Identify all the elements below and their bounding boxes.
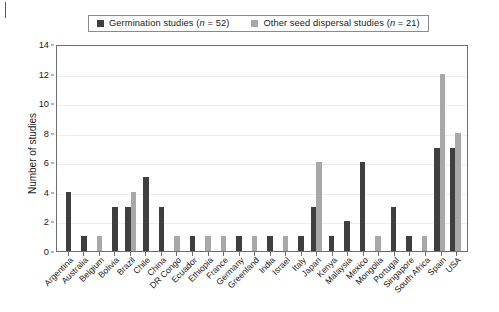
bar-group (293, 46, 308, 251)
bar (440, 74, 446, 251)
bar (143, 177, 149, 251)
bar-group (448, 46, 463, 251)
x-label-cell: Belgium (91, 253, 107, 311)
bar (205, 236, 211, 251)
y-tick-mark (51, 192, 55, 193)
bar-group (231, 46, 246, 251)
bar (221, 236, 227, 251)
x-label-cell: Brazil (122, 253, 138, 311)
x-label-cell: Italy (293, 253, 309, 311)
bar (360, 162, 366, 251)
x-label-cell: India (262, 253, 278, 311)
y-tick-label: 8 (44, 129, 49, 139)
x-label-cell: Spain (433, 253, 449, 311)
bar (112, 207, 118, 251)
y-tick-mark (51, 163, 55, 164)
bar (252, 236, 258, 251)
bar-group (216, 46, 231, 251)
y-tick-mark (51, 45, 55, 46)
bar (298, 236, 304, 251)
bar (190, 236, 196, 251)
bar (66, 192, 72, 251)
bar (455, 133, 461, 251)
bar-group (370, 46, 385, 251)
bar-group (169, 46, 184, 251)
bar (267, 236, 273, 251)
bar (316, 162, 322, 251)
bar-group (355, 46, 370, 251)
bar (131, 192, 137, 251)
bar-group (339, 46, 354, 251)
bar-group (309, 46, 324, 251)
bar-group (200, 46, 215, 251)
bar (422, 236, 428, 251)
y-tick-mark (51, 74, 55, 75)
bar-group (185, 46, 200, 251)
legend-entry-other-seed-dispersal-studies: Other seed dispersal studies (n = 21) (251, 19, 419, 28)
bar-group (138, 46, 153, 251)
legend-label-germination-studies: Germination studies (n = 52) (109, 19, 229, 28)
bar-group (401, 46, 416, 251)
x-label-cell: Bolivia (107, 253, 123, 311)
y-tick-label: 4 (44, 188, 49, 198)
bar (375, 236, 381, 251)
y-tick-label: 6 (44, 158, 49, 168)
bar (391, 207, 397, 251)
legend-label-other-seed-dispersal-studies: Other seed dispersal studies (n = 21) (263, 19, 419, 28)
bar (344, 221, 350, 251)
y-tick-label: 10 (39, 99, 49, 109)
bar (174, 236, 180, 251)
plot-area (56, 45, 468, 252)
bar-group (417, 46, 432, 251)
bar (329, 236, 335, 251)
page-corner-rule (5, 2, 6, 18)
legend-swatch-germination-studies (97, 20, 104, 27)
bar (406, 236, 412, 251)
bar-group (386, 46, 401, 251)
x-label-cell: Israel (277, 253, 293, 311)
bar (81, 236, 87, 251)
bar-group (278, 46, 293, 251)
x-label-cell: South Africa (417, 253, 433, 311)
y-tick-label: 14 (39, 40, 49, 50)
y-tick-label: 0 (44, 247, 49, 257)
x-label-cell: Greenland (246, 253, 262, 311)
bar-group (324, 46, 339, 251)
x-label-cell: Malaysia (340, 253, 356, 311)
bar-group (247, 46, 262, 251)
y-tick-label: 12 (39, 70, 49, 80)
y-tick-label: 2 (44, 217, 49, 227)
bar-group (432, 46, 447, 251)
y-tick-mark (51, 104, 55, 105)
y-tick-mark (51, 252, 55, 253)
bar-group (154, 46, 169, 251)
bar (283, 236, 289, 251)
bar-group (76, 46, 91, 251)
x-label-cell: Japan (309, 253, 325, 311)
x-label-cell: Ethiopia (200, 253, 216, 311)
bar-group (123, 46, 138, 251)
y-tick-mark (51, 133, 55, 134)
bar-group (61, 46, 76, 251)
bar-group (262, 46, 277, 251)
legend-swatch-other-seed-dispersal-studies (251, 20, 258, 27)
y-tick-mark (51, 222, 55, 223)
bar-group (107, 46, 122, 251)
x-label-cell: USA (448, 253, 464, 311)
bar-series-container (57, 46, 467, 251)
chart-legend: Germination studies (n = 52) Other seed … (88, 15, 429, 32)
legend-entry-germination-studies: Germination studies (n = 52) (97, 19, 229, 28)
bar (97, 236, 103, 251)
bar (236, 236, 242, 251)
bar-group (92, 46, 107, 251)
y-axis-ticks: 02468101214 (0, 45, 54, 252)
x-axis-labels: ArgentinaAustraliaBelgiumBoliviaBrazilCh… (56, 253, 468, 311)
bar (159, 207, 165, 251)
